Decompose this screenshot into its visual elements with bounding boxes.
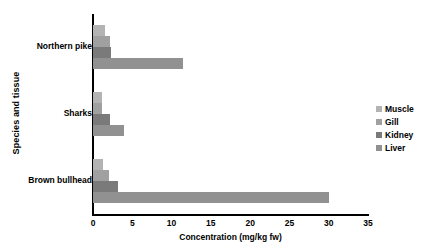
plot-area: [93, 14, 368, 214]
x-tick-35: 35: [363, 218, 372, 228]
x-axis-line: [92, 214, 369, 216]
bar-muscle-sharks: [93, 92, 102, 103]
legend-swatch-kidney: [376, 132, 382, 138]
category-label-northern-pike: Northern pike: [12, 42, 92, 51]
bar-chart: Species and tissue Northern pikeSharksBr…: [0, 0, 430, 251]
legend-label-muscle: Muscle: [385, 104, 414, 114]
bar-gill-sharks: [93, 103, 102, 114]
legend-label-kidney: Kidney: [385, 130, 413, 140]
legend-swatch-gill: [376, 119, 382, 125]
legend-item-kidney[interactable]: Kidney: [376, 129, 430, 141]
bar-kidney-sharks: [93, 114, 110, 125]
category-label-sharks: Sharks: [12, 109, 92, 118]
x-tick-20: 20: [245, 218, 254, 228]
category-label-brown-bullhead: Brown bullhead: [12, 176, 92, 185]
x-tick-30: 30: [324, 218, 333, 228]
x-tick-15: 15: [206, 218, 215, 228]
bar-kidney-northern-pike: [93, 47, 111, 58]
legend-item-gill[interactable]: Gill: [376, 116, 430, 128]
x-tick-25: 25: [285, 218, 294, 228]
x-axis-title: Concentration (mg/kg fw): [93, 232, 368, 242]
x-tick-0: 0: [91, 218, 96, 228]
legend-label-gill: Gill: [385, 117, 399, 127]
bar-muscle-northern-pike: [93, 25, 105, 36]
legend-item-muscle[interactable]: Muscle: [376, 103, 430, 115]
bar-gill-brown-bullhead: [93, 170, 109, 181]
bar-liver-brown-bullhead: [93, 192, 329, 203]
bar-gill-northern-pike: [93, 36, 110, 47]
x-axis-ticks: 05101520253035: [93, 218, 368, 230]
bar-muscle-brown-bullhead: [93, 159, 103, 170]
bar-kidney-brown-bullhead: [93, 181, 118, 192]
x-tick-5: 5: [130, 218, 135, 228]
bar-liver-northern-pike: [93, 58, 183, 69]
legend-label-liver: Liver: [385, 143, 405, 153]
legend-item-liver[interactable]: Liver: [376, 142, 430, 154]
category-labels: Northern pikeSharksBrown bullhead: [8, 14, 92, 214]
bar-liver-sharks: [93, 125, 124, 136]
x-tick-10: 10: [167, 218, 176, 228]
legend-swatch-liver: [376, 145, 382, 151]
chart-legend: MuscleGillKidneyLiver: [376, 103, 430, 155]
legend-swatch-muscle: [376, 106, 382, 112]
